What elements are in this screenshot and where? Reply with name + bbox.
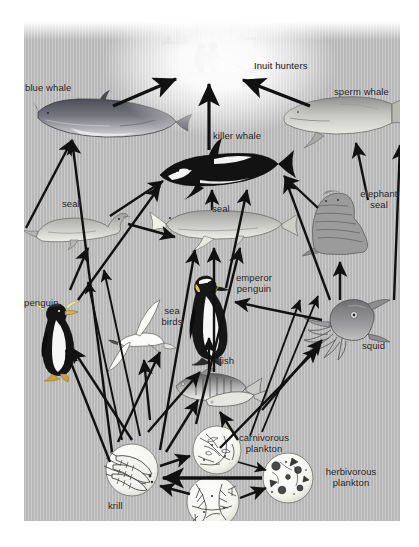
label-emperor-penguin: emperor penguin [222, 272, 286, 294]
edge-krill-to-carnivorous-plankton [160, 456, 190, 466]
edge-krill-to-fish [166, 400, 198, 452]
label-seal-center: seal [212, 203, 230, 214]
edge-blue-whale-to-hunters [113, 79, 176, 106]
right-margin [400, 0, 419, 547]
bottom-margin [0, 521, 419, 547]
edge-squid-to-killer-whale [285, 178, 330, 300]
label-krill: krill [108, 500, 123, 511]
edge-phytoplankton-to-krill [160, 486, 190, 494]
label-blue-whale: blue whale [25, 82, 71, 93]
edge-krill-to-seal-center [160, 250, 195, 450]
label-carnivorous-plankton: carnivorous plankton [228, 432, 300, 454]
food-web-diagram: Inuit hunters blue whale sperm whale kil… [0, 0, 419, 547]
edge-krill-to-upper-left-2 [104, 270, 140, 436]
edge-krill-to-emperor-penguin [148, 372, 200, 432]
label-herbivorous-plankton: herbivorous plankton [313, 466, 389, 488]
edge-phytoplankton-to-herbivorous [240, 488, 266, 498]
edge-krill-to-blue-whale [72, 140, 112, 452]
label-fish: fish [219, 355, 234, 366]
edge-sperm-whale-to-hunters [243, 80, 310, 106]
label-killer-whale: killer whale [213, 130, 261, 141]
edge-penguin-to-seal-left [70, 248, 88, 290]
edge-carnivorous-to-herbivorous [238, 462, 266, 470]
edge-seal-left-to-killer-whale [110, 181, 163, 216]
label-sperm-whale: sperm whale [334, 86, 389, 97]
edge-plankton-to-upper-right-1 [250, 300, 300, 436]
edge-plankton-to-upper-right-2 [262, 296, 318, 432]
label-inuit-hunters: Inuit hunters [254, 60, 308, 71]
edge-seal-left-to-seal-center [128, 224, 175, 237]
label-seal-left: seal [62, 198, 80, 209]
label-penguin: penguin [24, 297, 59, 308]
edge-fish-to-sea-birds [144, 360, 150, 420]
left-margin [0, 0, 24, 547]
label-squid: squid [362, 340, 385, 351]
edge-krill-to-penguin [66, 350, 110, 462]
label-sea-birds: sea birds [154, 305, 190, 327]
edge-seal-left-to-blue-whale [26, 140, 72, 228]
